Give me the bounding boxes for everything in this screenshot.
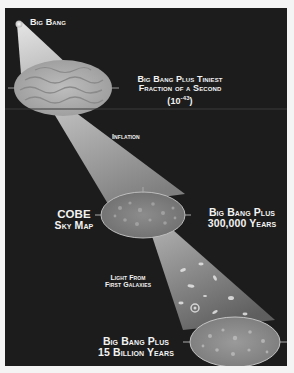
- label-tiniest-fraction-line2: Fraction of a Second: [120, 84, 240, 93]
- label-inflation: Inflation: [112, 133, 140, 140]
- label-first-galaxies: Light From First Galaxies: [98, 274, 158, 289]
- label-300000-years: Big Bang Plus 300,000 Years: [197, 207, 287, 229]
- beam-inflation: [53, 112, 185, 204]
- label-sky-map: Sky Map: [46, 220, 102, 231]
- diagram-graphics: [5, 8, 287, 366]
- universe-timeline-diagram: Big Bang Big Bang Plus Tiniest Fraction …: [5, 8, 287, 366]
- label-cobe-sky-map: COBE Sky Map: [46, 208, 102, 231]
- label-tiniest-fraction-line3: (10-43): [120, 95, 240, 106]
- label-big-bang: Big Bang: [30, 18, 66, 27]
- beam-first-galaxies: [150, 230, 275, 330]
- big-bang-point: [16, 21, 23, 28]
- label-15-billion-years: Big Bang Plus 15 Billion Years: [87, 336, 185, 358]
- label-tiniest-fraction: Big Bang Plus Tiniest Fraction of a Seco…: [120, 75, 240, 106]
